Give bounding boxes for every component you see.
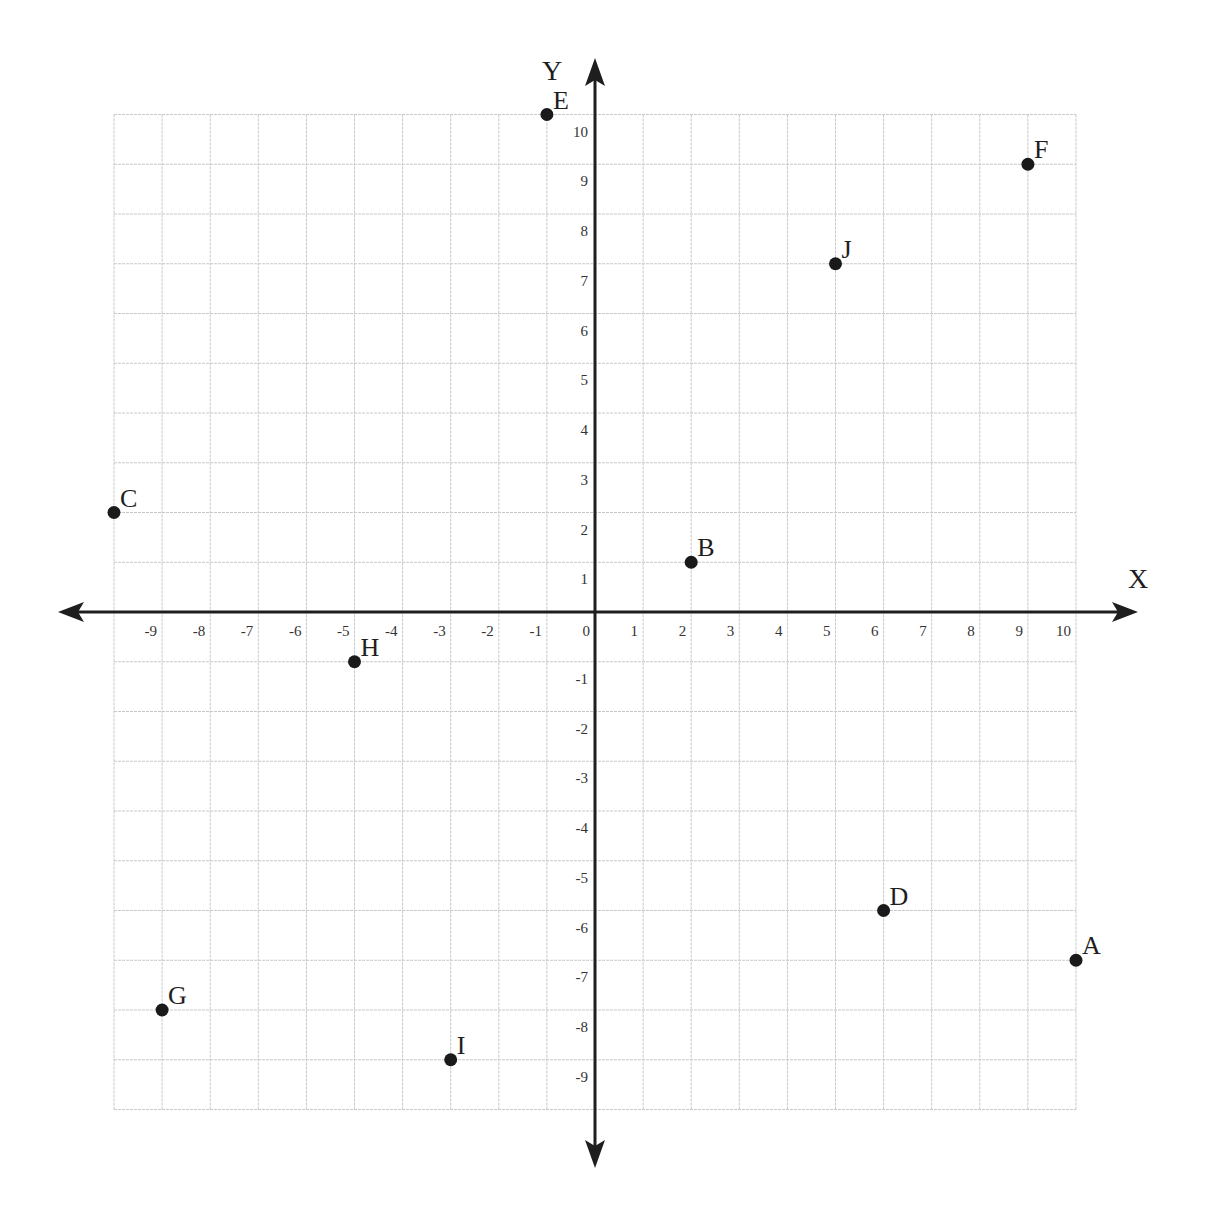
- x-tick-label: 9: [1015, 623, 1023, 639]
- point-d: D: [877, 882, 908, 918]
- y-tick-label: 5: [581, 372, 589, 388]
- point-g: G: [156, 981, 187, 1017]
- point-label: E: [553, 86, 569, 115]
- y-tick-label: -5: [576, 870, 589, 886]
- point-c: C: [108, 484, 138, 520]
- point-marker-icon: [540, 108, 553, 121]
- x-tick-label: -6: [289, 623, 302, 639]
- y-tick-label: 2: [581, 522, 589, 538]
- point-j: J: [829, 235, 852, 271]
- y-tick-label: 7: [581, 273, 589, 289]
- point-label: F: [1034, 135, 1048, 164]
- point-a: A: [1070, 931, 1102, 967]
- y-tick-label: -6: [576, 920, 589, 936]
- x-tick-label: -5: [337, 623, 350, 639]
- y-axis-label: Y: [542, 55, 562, 86]
- x-tick-label: 3: [727, 623, 735, 639]
- y-tick-label: 8: [581, 223, 589, 239]
- x-tick-label: 5: [823, 623, 831, 639]
- point-marker-icon: [1070, 954, 1083, 967]
- y-tick-label: 3: [581, 472, 589, 488]
- y-tick-label: -8: [576, 1019, 589, 1035]
- y-tick-label: 10: [573, 124, 588, 140]
- y-tick-label: 1: [581, 571, 589, 587]
- point-marker-icon: [108, 506, 121, 519]
- point-label: J: [842, 235, 852, 264]
- x-tick-label: -7: [241, 623, 254, 639]
- point-label: A: [1082, 931, 1101, 960]
- point-label: B: [697, 533, 714, 562]
- point-label: C: [120, 484, 137, 513]
- point-label: H: [361, 633, 380, 662]
- y-tick-label: -2: [576, 721, 589, 737]
- point-marker-icon: [829, 257, 842, 270]
- x-tick-label: 7: [919, 623, 927, 639]
- x-tick-label: 0: [583, 623, 591, 639]
- coordinate-plane: X Y -9-8-7-6-5-4-3-2-1012345678910109876…: [0, 0, 1205, 1230]
- y-tick-label: -7: [576, 969, 589, 985]
- x-tick-label: 8: [967, 623, 975, 639]
- y-tick-label: 9: [581, 173, 589, 189]
- y-tick-label: -3: [576, 770, 589, 786]
- y-tick-label: 6: [581, 323, 589, 339]
- point-h: H: [348, 633, 380, 669]
- point-marker-icon: [685, 556, 698, 569]
- point-label: I: [457, 1031, 466, 1060]
- point-e: E: [540, 86, 568, 122]
- point-marker-icon: [1021, 158, 1034, 171]
- y-tick-label: 4: [581, 422, 589, 438]
- point-marker-icon: [877, 904, 890, 917]
- point-label: G: [168, 981, 187, 1010]
- x-tick-label: -2: [481, 623, 494, 639]
- point-marker-icon: [444, 1053, 457, 1066]
- axes: X Y: [58, 55, 1148, 1168]
- x-axis-label: X: [1128, 563, 1148, 594]
- y-tick-label: -9: [576, 1069, 589, 1085]
- x-tick-label: 10: [1056, 623, 1071, 639]
- x-tick-label: -3: [433, 623, 446, 639]
- point-marker-icon: [348, 655, 361, 668]
- y-tick-label: -4: [576, 820, 589, 836]
- point-b: B: [685, 533, 715, 569]
- point-i: I: [444, 1031, 465, 1067]
- y-tick-label: -1: [576, 671, 589, 687]
- x-tick-label: 6: [871, 623, 879, 639]
- x-tick-label: -1: [529, 623, 542, 639]
- x-tick-label: -9: [145, 623, 158, 639]
- x-tick-label: -8: [193, 623, 206, 639]
- x-tick-label: -4: [385, 623, 398, 639]
- x-tick-label: 4: [775, 623, 783, 639]
- x-tick-label: 1: [631, 623, 639, 639]
- point-marker-icon: [156, 1004, 169, 1017]
- point-label: D: [890, 882, 909, 911]
- x-tick-label: 2: [679, 623, 687, 639]
- point-f: F: [1021, 135, 1048, 171]
- data-points: ABCDEFGHIJ: [108, 86, 1102, 1067]
